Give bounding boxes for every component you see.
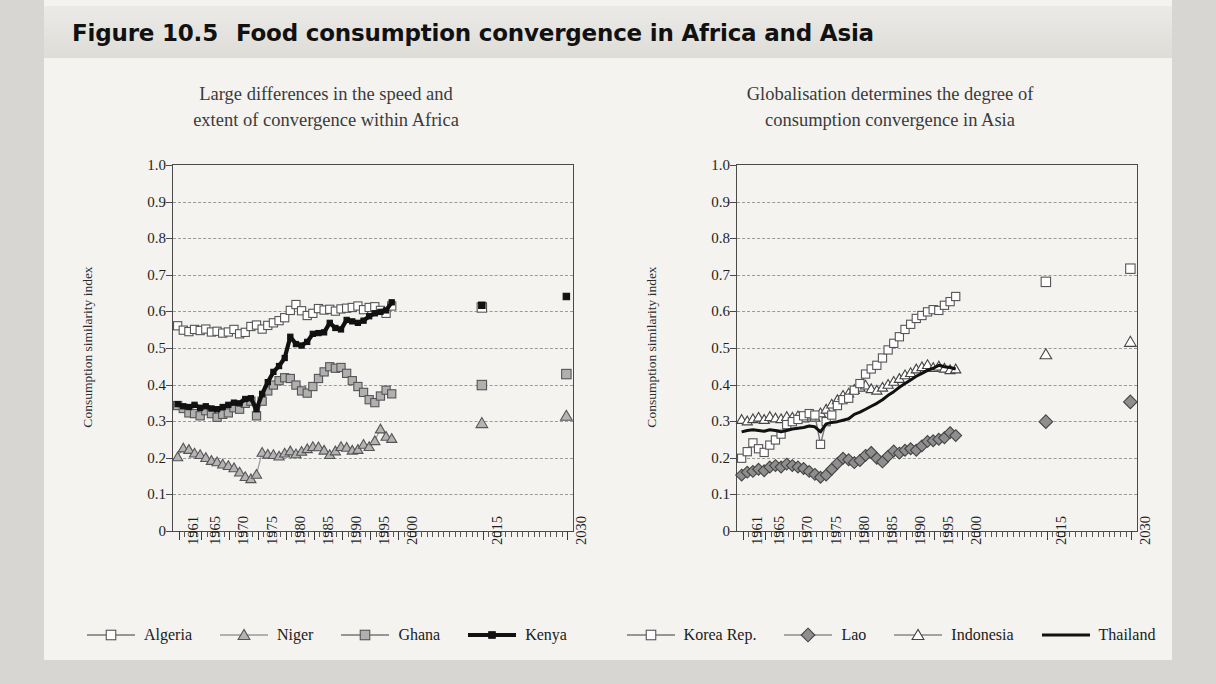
chart-panel-asia: Globalisation determines the degree of c… [608, 74, 1172, 660]
legend-asia: Korea Rep.LaoIndonesiaThailand [608, 626, 1172, 644]
series-marker [265, 380, 270, 385]
legend-swatch-triangle-open-icon [892, 627, 944, 643]
series-marker [203, 404, 208, 409]
figure-panel: Figure 10.5Food consumption convergence … [44, 0, 1172, 660]
projection-marker [476, 418, 488, 428]
series-marker [389, 300, 394, 305]
legend-item-lao[interactable]: Lao [782, 626, 866, 644]
projection-marker [479, 302, 485, 308]
legend-label: Kenya [525, 626, 567, 644]
series-marker [237, 401, 242, 406]
projection-marker [561, 410, 573, 420]
series-marker [186, 404, 191, 409]
series-marker [370, 436, 380, 445]
projection-marker [1039, 415, 1053, 429]
series-marker [310, 331, 315, 336]
series-marker [181, 404, 186, 409]
legend-item-algeria[interactable]: Algeria [85, 626, 192, 644]
legend-item-kenya[interactable]: Kenya [466, 626, 567, 644]
figure-title-bar: Figure 10.5Food consumption convergence … [44, 6, 1172, 58]
chart-panel-africa: Large differences in the speed and exten… [44, 74, 608, 660]
series-marker [338, 327, 343, 332]
series-marker [243, 396, 248, 401]
series-marker [220, 404, 225, 409]
legend-label: Ghana [398, 626, 440, 644]
series-marker [192, 402, 197, 407]
projection-marker [477, 380, 486, 389]
plot-area-asia: Consumption similarity index00.10.20.30.… [608, 74, 1172, 660]
series-marker [252, 412, 260, 420]
legend-item-ghana[interactable]: Ghana [339, 626, 440, 644]
legend-label: Niger [277, 626, 313, 644]
legend-label: Lao [841, 626, 866, 644]
figure-title-text: Food consumption convergence in Africa a… [236, 20, 874, 46]
projection-marker [1040, 349, 1052, 359]
series-marker [226, 402, 231, 407]
legend-swatch-square-filled-icon [466, 627, 518, 643]
series-marker [327, 320, 332, 325]
series-marker [361, 318, 366, 323]
series-marker [378, 309, 383, 314]
series-marker [309, 382, 317, 390]
series-marker [282, 355, 287, 360]
series-marker [322, 330, 327, 335]
series-marker [214, 407, 219, 412]
series-marker [305, 339, 310, 344]
legend-marker [361, 630, 371, 640]
series-marker [248, 396, 253, 401]
legend-label: Thailand [1099, 626, 1156, 644]
legend-item-thailand[interactable]: Thailand [1040, 626, 1156, 644]
legend-label: Algeria [144, 626, 192, 644]
series-marker [198, 405, 203, 410]
projection-marker [563, 293, 569, 299]
legend-item-indonesia[interactable]: Indonesia [892, 626, 1013, 644]
series-marker [271, 369, 276, 374]
plot-area-africa: Consumption similarity index00.10.20.30.… [44, 74, 608, 660]
series-marker [209, 406, 214, 411]
legend-label: Indonesia [951, 626, 1013, 644]
legend-swatch-triangle-icon [218, 627, 270, 643]
series-marker [952, 292, 960, 300]
series-marker [388, 390, 396, 398]
series-marker [333, 325, 338, 330]
series-marker [293, 341, 298, 346]
series-marker [254, 407, 259, 412]
series-marker [260, 391, 265, 396]
series-marker [251, 470, 261, 479]
legend-item-korea-rep-[interactable]: Korea Rep. [625, 626, 757, 644]
series-marker [350, 319, 355, 324]
series-marker [316, 330, 321, 335]
projection-marker [1041, 277, 1050, 286]
projection-marker [1124, 395, 1138, 409]
series-marker [845, 394, 853, 402]
series-marker [816, 440, 824, 448]
projection-marker [1125, 336, 1137, 346]
legend-swatch-square-icon [339, 627, 391, 643]
series-marker [856, 380, 864, 388]
series-marker [276, 363, 281, 368]
series-marker [372, 311, 377, 316]
page-title: Figure 10.5Food consumption convergence … [72, 20, 874, 46]
series-marker [383, 308, 388, 313]
legend-swatch-diamond-icon [782, 627, 834, 643]
legend-swatch-square-icon [625, 627, 677, 643]
legend-marker [106, 630, 116, 640]
series-marker [288, 334, 293, 339]
series-marker [173, 452, 183, 461]
series-marker [344, 317, 349, 322]
legend-item-niger[interactable]: Niger [218, 626, 313, 644]
projection-marker [562, 369, 571, 378]
figure-number: Figure 10.5 [72, 20, 218, 46]
projection-marker [1126, 264, 1135, 273]
series-marker [811, 411, 819, 419]
series-marker [743, 448, 751, 456]
legend-swatch-square-icon [85, 627, 137, 643]
series-marker [175, 401, 180, 406]
series-layer [44, 74, 608, 660]
legend-marker [489, 632, 496, 639]
series-marker [231, 400, 236, 405]
series-marker [878, 354, 886, 362]
legend-marker [646, 630, 656, 640]
legend-label: Korea Rep. [684, 626, 757, 644]
series-marker [299, 343, 304, 348]
